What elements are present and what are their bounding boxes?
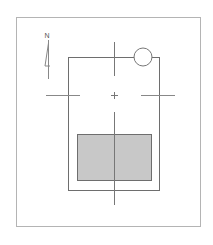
- north-label: N: [45, 32, 50, 39]
- center-cross-icon: [111, 92, 118, 99]
- corner-circle: [134, 48, 152, 66]
- north-arrow-icon: N: [45, 32, 51, 79]
- outer-frame: [17, 18, 201, 227]
- site-plan-diagram: N: [0, 0, 213, 245]
